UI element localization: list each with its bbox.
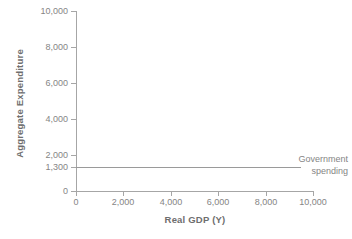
y-tick-label-1300: 1,300 (2, 163, 68, 172)
x-axis-title: Real GDP (Y) (76, 214, 314, 225)
y-axis-line (76, 11, 77, 191)
x-tick-mark-8000 (266, 191, 267, 196)
x-tick-label-4000: 4,000 (160, 197, 183, 207)
x-tick-label-10000: 10,000 (299, 197, 327, 207)
y-axis-title: Aggregate Expenditure (14, 29, 25, 179)
y-tick-mark-10000 (71, 11, 76, 12)
chart-canvas: 10,000 8,000 6,000 4,000 2,000 1,300 0 0… (0, 0, 352, 239)
annotation-line-2: spending (268, 166, 348, 178)
x-tick-mark-0 (76, 191, 77, 196)
annotation-line-1: Government (268, 154, 348, 166)
y-tick-mark-4000 (71, 119, 76, 120)
x-tick-mark-6000 (218, 191, 219, 196)
y-tick-label-10000: 10,000 (2, 7, 68, 16)
x-tick-mark-2000 (123, 191, 124, 196)
x-tick-label-2000: 2,000 (112, 197, 135, 207)
y-tick-label-8000: 8,000 (2, 43, 68, 52)
x-tick-mark-4000 (171, 191, 172, 196)
y-tick-label-2000: 2,000 (2, 151, 68, 160)
y-tick-label-4000: 4,000 (2, 115, 68, 124)
x-tick-label-0: 0 (73, 197, 78, 207)
x-tick-mark-10000 (313, 191, 314, 196)
x-tick-label-6000: 6,000 (207, 197, 230, 207)
government-spending-annotation: Government spending (268, 154, 348, 177)
y-tick-label-0: 0 (2, 187, 68, 196)
y-tick-mark-2000 (71, 155, 76, 156)
y-tick-mark-8000 (71, 47, 76, 48)
y-tick-label-6000: 6,000 (2, 79, 68, 88)
x-axis-line (76, 191, 314, 192)
y-tick-mark-6000 (71, 83, 76, 84)
x-tick-label-8000: 8,000 (255, 197, 278, 207)
